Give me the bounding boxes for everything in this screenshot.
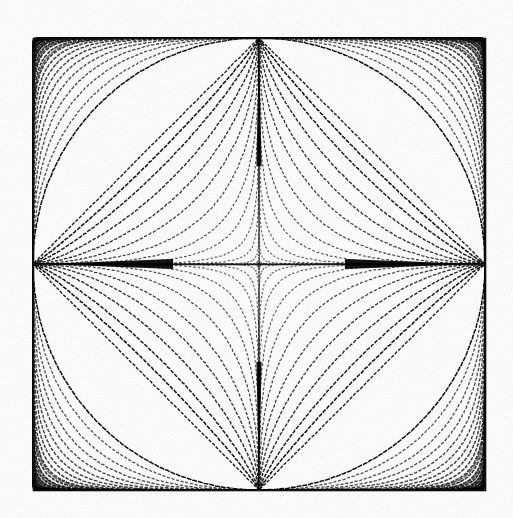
figure-container — [0, 0, 513, 518]
superellipse-family-plot — [0, 0, 513, 518]
